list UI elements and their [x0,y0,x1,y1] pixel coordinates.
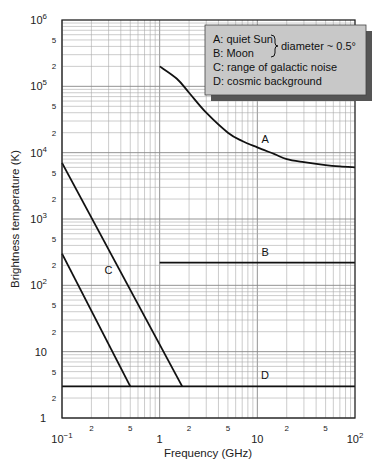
tick-label-minor: 5 [323,424,328,433]
legend-brace-note: diameter ~ 0.5° [281,40,356,52]
tick-label-minor: 2 [52,129,57,138]
brightness-temperature-chart: ABCD 10−11101022525251101021031041051062… [0,0,379,469]
legend-line-a: A: quiet Sun [213,33,273,45]
tick-label-minor: 5 [52,36,57,45]
data-curves [62,66,355,386]
tick-label: 10 [251,433,263,445]
curve-label-d: D [261,369,269,381]
tick-label: 105 [30,78,47,92]
tick-label-minor: 5 [226,424,231,433]
curve-label-a: A [261,133,269,145]
curve-label-b: B [261,246,268,258]
tick-label: 106 [30,12,47,26]
legend-box: A: quiet Sun B: Moon C: range of galacti… [205,25,372,101]
tick-label-minor: 2 [285,424,290,433]
legend-line-d: D: cosmic background [213,75,322,87]
curve-c [62,163,182,386]
tick-label: 1 [157,433,163,445]
tick-label: 10−1 [51,431,73,445]
tick-label-minor: 2 [89,424,94,433]
tick-label: 104 [30,145,47,159]
tick-label-minor: 2 [52,195,57,204]
tick-label-minor: 5 [52,301,57,310]
tick-label: 102 [347,431,364,445]
tick-label-minor: 2 [52,328,57,337]
tick-label-minor: 2 [52,62,57,71]
legend-line-b: B: Moon [213,47,254,59]
tick-label-minor: 2 [187,424,192,433]
tick-label: 103 [30,211,47,225]
tick-label: 10 [35,346,47,358]
tick-label-minor: 2 [52,261,57,270]
tick-label-minor: 5 [52,368,57,377]
tick-label-minor: 5 [52,102,57,111]
tick-label-minor: 5 [52,169,57,178]
tick-label-minor: 5 [128,424,133,433]
curve-labels: ABCD [105,133,270,381]
legend-line-c: C: range of galactic noise [213,61,337,73]
y-axis-label: Brightness temperature (K) [9,150,21,288]
curve-label-c: C [105,264,113,276]
tick-label: 1 [40,412,46,424]
tick-label-minor: 2 [52,394,57,403]
tick-label: 102 [30,277,47,291]
tick-label-minor: 5 [52,235,57,244]
x-axis-label: Frequency (GHz) [164,447,252,459]
